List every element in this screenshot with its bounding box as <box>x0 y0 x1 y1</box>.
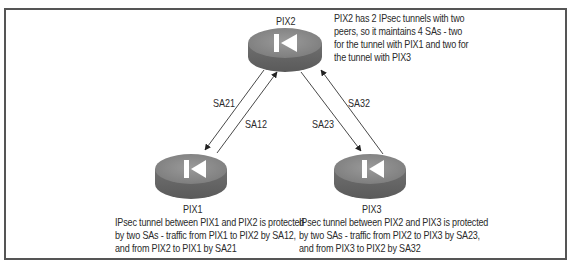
note-pix3-line: and from PIX3 to PIX2 by SA32 <box>299 242 488 255</box>
note-pix3-line: IPsec tunnel between PIX2 and PIX3 is pr… <box>299 216 488 229</box>
note-pix2-line: PIX2 has 2 IPsec tunnels with two <box>334 12 468 25</box>
edge-label-sa12: SA12 <box>245 118 267 130</box>
note-pix1: IPsec tunnel between PIX1 and PIX2 is pr… <box>115 216 304 255</box>
node-label-pix1: PIX1 <box>183 203 203 215</box>
node-label-pix3: PIX3 <box>362 203 382 215</box>
note-pix1-line: by two SAs - traffic from PIX1 to PIX2 b… <box>115 229 304 242</box>
router-pix1-icon[interactable] <box>155 154 227 199</box>
router-pix2-icon[interactable] <box>248 28 322 72</box>
node-label-pix2: PIX2 <box>276 15 296 27</box>
edge-label-sa23: SA23 <box>312 118 334 130</box>
note-pix2-line: peers, so it maintains 4 SAs - two <box>334 25 468 38</box>
note-pix2: PIX2 has 2 IPsec tunnels with two peers,… <box>334 12 468 64</box>
arrow-sa32 <box>321 70 383 154</box>
note-pix1-line: IPsec tunnel between PIX1 and PIX2 is pr… <box>115 216 304 229</box>
edge-label-sa32: SA32 <box>348 97 370 109</box>
note-pix2-line: for the tunnel with PIX1 and two for <box>334 38 468 51</box>
arrow-sa21 <box>205 70 264 150</box>
note-pix3: IPsec tunnel between PIX2 and PIX3 is pr… <box>299 216 488 255</box>
note-pix1-line: and from PIX2 to PIX1 by SA21 <box>115 242 304 255</box>
note-pix2-line: the tunnel with PIX3 <box>334 51 468 64</box>
router-pix3-icon[interactable] <box>334 154 406 199</box>
edge-label-sa21: SA21 <box>213 97 235 109</box>
note-pix3-line: by two SAs - traffic from PIX2 to PIX3 b… <box>299 229 488 242</box>
arrow-sa12 <box>217 72 277 153</box>
